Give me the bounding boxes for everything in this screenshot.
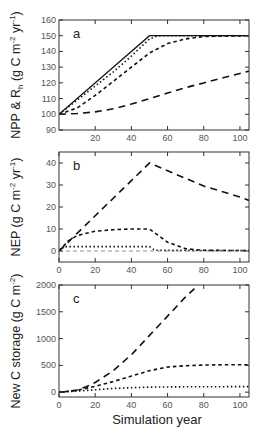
y-tick-label: 500 — [41, 360, 56, 370]
y-tick-label: 1000 — [36, 334, 56, 344]
panel-letter: b — [73, 158, 80, 173]
series-line-solid — [59, 36, 249, 115]
y-tick-label: 110 — [42, 94, 56, 104]
y-tick-label: 10 — [46, 224, 56, 234]
y-tick-label: 150 — [41, 31, 56, 41]
x-tick-label: 80 — [199, 133, 209, 143]
x-tick-label: 60 — [163, 400, 173, 410]
y-tick-label: 120 — [41, 78, 56, 88]
x-tick-label: 20 — [90, 265, 100, 275]
panel-b-nep: 020406080100010203040bNEP (g C m-2 yr-1) — [8, 152, 249, 275]
panel-letter: c — [73, 291, 80, 306]
x-tick-label: 60 — [163, 265, 173, 275]
x-tick-label: 80 — [199, 265, 209, 275]
x-tick-label: 0 — [56, 400, 61, 410]
x-tick-label: 0 — [56, 265, 61, 275]
series-line-short-dash — [59, 229, 249, 251]
x-tick-label: 100 — [232, 400, 247, 410]
x-tick-label: 40 — [126, 133, 136, 143]
y-tick-label: 140 — [41, 46, 56, 56]
x-tick-label: 100 — [232, 265, 247, 275]
x-tick-label: 60 — [163, 133, 173, 143]
x-tick-label: 80 — [199, 400, 209, 410]
x-tick-label: 20 — [90, 133, 100, 143]
y-axis-label: New C storage (g C m-2) — [8, 274, 23, 409]
y-tick-label: 100 — [41, 109, 56, 119]
y-axis-label: NEP (g C m-2 yr-1) — [8, 158, 23, 257]
plot-frame — [59, 285, 249, 397]
x-tick-label: 20 — [90, 400, 100, 410]
series-group — [59, 163, 249, 251]
series-group — [59, 36, 249, 115]
series-line-long-dash — [59, 71, 249, 114]
y-tick-label: 0 — [51, 246, 56, 256]
y-tick-label: 30 — [46, 180, 56, 190]
y-tick-label: 90 — [46, 125, 56, 135]
panel-a-npp-rh: 2040608010090100110120130140150160aNPP &… — [8, 11, 249, 143]
y-tick-label: 130 — [41, 62, 56, 72]
x-tick-label: 100 — [232, 133, 247, 143]
x-axis-title: Simulation year — [112, 412, 202, 427]
y-axis-label: NPP & Rh (g C m-2 yr-1) — [8, 11, 25, 139]
y-tick-label: 160 — [41, 15, 56, 25]
y-tick-label: 1500 — [36, 307, 56, 317]
y-tick-label: 40 — [46, 158, 56, 168]
plot-frame — [59, 152, 249, 262]
figure: 2040608010090100110120130140150160aNPP &… — [0, 0, 263, 438]
y-tick-label: 20 — [46, 202, 56, 212]
series-group — [59, 285, 249, 392]
series-line-dotted — [59, 36, 249, 115]
panel-c-new-c-storage: 0204060801000500100015002000cNew C stora… — [8, 274, 249, 410]
series-line-long-dash — [59, 163, 249, 251]
series-line-short-dash — [59, 36, 249, 115]
x-tick-label: 40 — [126, 265, 136, 275]
x-tick-label: 40 — [126, 400, 136, 410]
y-tick-label: 2000 — [36, 280, 56, 290]
series-line-dotted — [59, 247, 249, 251]
series-line-short-dash — [59, 365, 249, 393]
y-tick-label: 0 — [51, 387, 56, 397]
panel-letter: a — [73, 26, 81, 41]
